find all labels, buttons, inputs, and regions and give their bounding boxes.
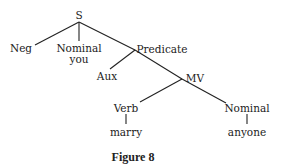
node-marry: marry (110, 126, 142, 138)
node-verb: Verb (114, 102, 139, 114)
node-neg: Neg (10, 42, 32, 54)
edge-predicate-aux (110, 50, 135, 69)
node-aux: Aux (97, 70, 117, 82)
node-predicate: Predicate (137, 43, 188, 55)
figure-caption: Figure 8 (112, 150, 155, 165)
node-you: you (69, 53, 88, 65)
node-s: S (75, 9, 82, 21)
edge-mv-verb (140, 79, 182, 102)
tree-edges (0, 0, 282, 166)
node-mv: MV (186, 72, 204, 84)
node-anyone: anyone (228, 126, 266, 138)
node-nominal-object: Nominal (224, 102, 269, 114)
